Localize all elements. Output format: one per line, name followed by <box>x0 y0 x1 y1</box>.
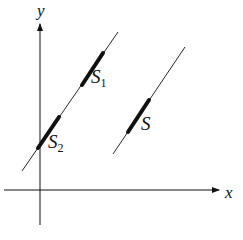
segment-s-label: S <box>141 113 151 134</box>
segment-s2-label: S2 <box>48 131 64 155</box>
x-axis-label: x <box>224 183 233 202</box>
diagram-figure: y x S1 S2 S <box>0 0 243 240</box>
segment-s1-label: S1 <box>91 66 107 90</box>
y-axis-label: y <box>35 1 45 20</box>
diagram-canvas: y x S1 S2 S <box>0 0 243 240</box>
